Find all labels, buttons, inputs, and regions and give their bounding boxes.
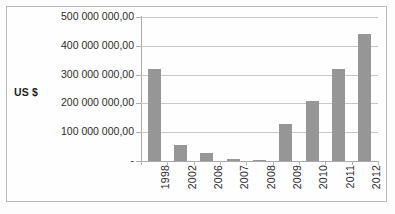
bar — [332, 69, 345, 161]
x-axis-category-label: 2012 — [370, 165, 382, 189]
y-axis-tick — [136, 103, 141, 104]
gridline — [141, 17, 378, 18]
x-axis-category-labels: 199820022006200720082009201020112012 — [141, 163, 378, 209]
y-axis-tick — [136, 17, 141, 18]
y-axis-tick-labels: -100 000 000,00200 000 000,00300 000 000… — [0, 0, 134, 214]
bar — [253, 160, 266, 161]
x-axis-category-label: 2009 — [291, 165, 303, 189]
y-axis-tick-label: 400 000 000,00 — [2, 40, 134, 51]
x-axis-category-label: 2006 — [212, 165, 224, 189]
gridline — [141, 46, 378, 47]
y-axis-tick-label: 500 000 000,00 — [2, 11, 134, 22]
chart-screenshot: US $ -100 000 000,00200 000 000,00300 00… — [0, 0, 395, 214]
y-axis-tick — [136, 75, 141, 76]
x-axis-category-label: 2008 — [265, 165, 277, 189]
bar — [358, 34, 371, 161]
y-axis-tick — [136, 46, 141, 47]
x-axis-category-label: 2010 — [317, 165, 329, 189]
plot-area — [141, 17, 378, 161]
x-axis-category-label: 1998 — [159, 165, 171, 189]
bar — [306, 101, 319, 161]
x-axis-category-label: 2011 — [344, 165, 356, 188]
bar — [148, 69, 161, 161]
y-axis-tick-label: 200 000 000,00 — [2, 97, 134, 108]
y-axis-tick — [136, 132, 141, 133]
bar — [279, 124, 292, 161]
bar — [174, 145, 187, 161]
x-axis-category-label: 2007 — [238, 165, 250, 189]
bar — [227, 159, 240, 161]
y-axis-tick-label: 300 000 000,00 — [2, 69, 134, 80]
y-axis-tick-label: - — [2, 155, 134, 166]
gridline — [141, 161, 378, 162]
bar — [200, 153, 213, 161]
x-axis-category-label: 2002 — [186, 165, 198, 189]
y-axis-tick-label: 100 000 000,00 — [2, 126, 134, 137]
